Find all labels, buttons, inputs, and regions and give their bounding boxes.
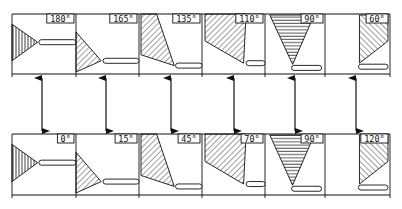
nozzle-panel: 135°	[141, 14, 202, 69]
nozzle-tube	[246, 182, 265, 187]
nozzle-tube	[176, 63, 202, 68]
nozzle-tube	[246, 61, 265, 66]
angle-label: 15°	[118, 134, 133, 144]
nozzle-panel: 90°	[270, 14, 323, 71]
nozzle-tube	[39, 160, 76, 165]
nozzle-angle-diagram: 180°165°135°110°90°60°0°15°45°70°90°120°	[0, 0, 402, 209]
spray-cone-shape	[76, 32, 101, 72]
nozzle-panel: 180°	[12, 14, 76, 61]
nozzle-panel: 70°	[205, 134, 265, 187]
connector-arrows	[42, 78, 356, 131]
nozzle-panel: 90°	[270, 134, 323, 192]
spray-cone-shape	[12, 144, 38, 181]
nozzle-tube	[358, 64, 388, 69]
spray-cone-shape	[76, 152, 101, 193]
spray-cone-shape	[205, 134, 246, 184]
angle-label: 90°	[304, 14, 319, 24]
nozzle-tube	[358, 185, 388, 190]
nozzle-panel: 0°	[12, 134, 76, 182]
nozzle-panel: 120°	[358, 134, 388, 191]
angle-label: 120°	[364, 134, 384, 144]
nozzle-tube	[39, 40, 76, 45]
nozzle-panel: 60°	[358, 14, 388, 70]
angle-label: 70°	[244, 134, 259, 144]
nozzle-panel: 165°	[76, 14, 139, 73]
nozzle-tube	[103, 58, 139, 63]
spray-cone-shape	[141, 14, 174, 66]
angle-label: 135°	[176, 14, 196, 24]
angle-label: 45°	[181, 134, 196, 144]
nozzle-tube	[103, 179, 139, 184]
diagram-stage: 180°165°135°110°90°60°0°15°45°70°90°120°…	[0, 0, 402, 209]
angle-label: 165°	[113, 14, 133, 24]
nozzle-tube	[292, 65, 322, 70]
angle-label: 60°	[369, 14, 384, 24]
top-row: 180°165°135°110°90°60°	[12, 14, 390, 78]
spray-cone-shape	[141, 134, 174, 186]
nozzle-panel: 45°	[141, 134, 202, 189]
nozzle-tube	[292, 186, 322, 191]
angle-label: 0°	[61, 134, 71, 144]
nozzle-panel: 15°	[76, 134, 139, 194]
nozzle-panel: 110°	[205, 14, 265, 66]
nozzle-tube	[176, 184, 202, 189]
bottom-row: 0°15°45°70°90°120°	[12, 134, 390, 199]
angle-label: 90°	[304, 134, 319, 144]
spray-cone-shape	[12, 24, 38, 61]
angle-label: 110°	[239, 14, 259, 24]
angle-label: 180°	[50, 14, 70, 24]
